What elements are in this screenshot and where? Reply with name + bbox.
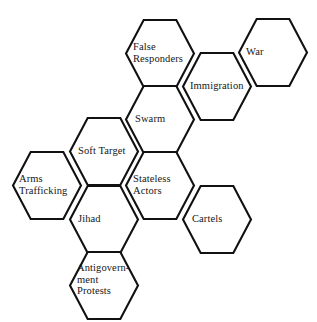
hexagon-grid-svg xyxy=(0,0,317,322)
hexagon-stateless-actors[interactable] xyxy=(126,152,194,219)
hexagon-false-responders[interactable] xyxy=(126,20,194,87)
hexagon-swarm[interactable] xyxy=(126,86,194,153)
hexagon-arms-trafficking[interactable] xyxy=(13,152,81,219)
hexagon-immigration[interactable] xyxy=(183,53,251,120)
hexagon-antigovernment-protests[interactable] xyxy=(70,252,138,319)
hexagon-diagram-canvas: FalseRespondersWarImmigrationSwarmSoft T… xyxy=(0,0,317,322)
hexagon-cartels[interactable] xyxy=(183,186,251,253)
hexagon-jihad[interactable] xyxy=(70,186,138,253)
hexagon-soft-target[interactable] xyxy=(70,118,138,185)
hexagon-war[interactable] xyxy=(239,19,307,86)
